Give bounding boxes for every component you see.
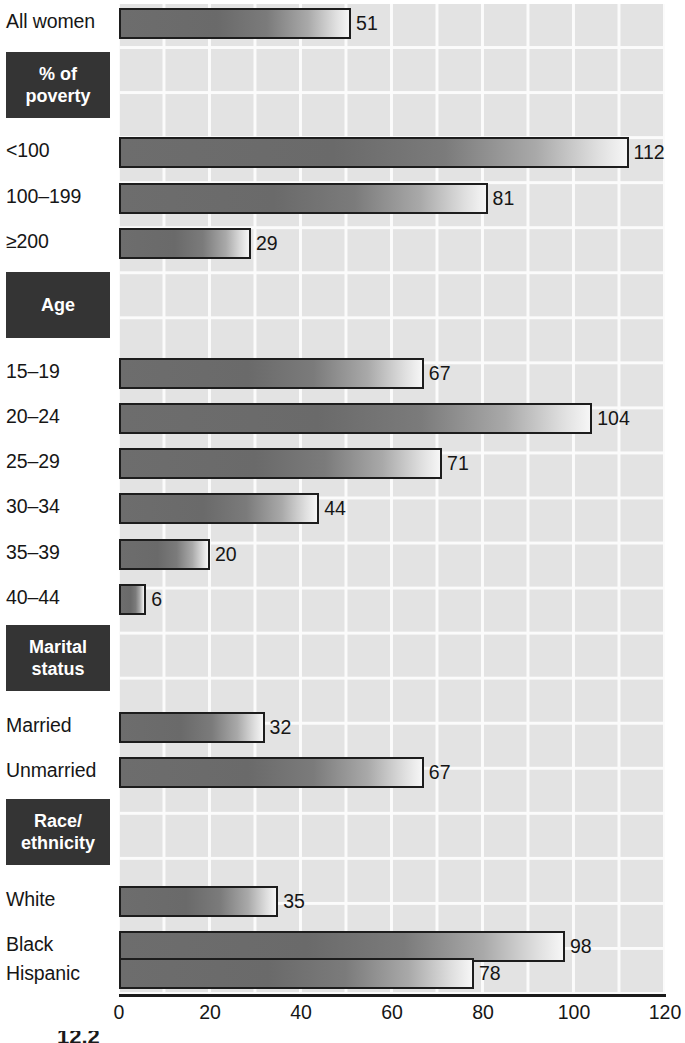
bar-value-label: 35 xyxy=(283,890,305,913)
bar-row-label: Black xyxy=(6,933,114,956)
bar-value-label: 67 xyxy=(429,362,451,385)
section-heading: Maritalstatus xyxy=(6,625,110,691)
x-axis-tick-label: 80 xyxy=(463,1001,503,1024)
bar xyxy=(119,539,210,570)
bar xyxy=(119,183,488,214)
bar-row-label: <100 xyxy=(6,139,114,162)
section-heading-line-2: ethnicity xyxy=(21,832,95,854)
section-heading-line-2: poverty xyxy=(25,85,90,107)
bar-row-label: Married xyxy=(6,714,114,737)
bar xyxy=(119,358,424,389)
bar-value-label: 104 xyxy=(597,407,630,430)
x-axis-tick-label: 100 xyxy=(554,1001,594,1024)
bar xyxy=(119,228,251,259)
bar-row-label: 25–29 xyxy=(6,450,114,473)
bar-row-label: Unmarried xyxy=(6,759,114,782)
bar-value-label: 6 xyxy=(151,588,162,611)
bar-row-label: White xyxy=(6,888,114,911)
bar-value-label: 98 xyxy=(570,935,592,958)
bar-row-label: All women xyxy=(6,10,114,33)
bar-row-label: 40–44 xyxy=(6,586,114,609)
section-heading-line-1: % of xyxy=(39,63,77,85)
bar xyxy=(119,8,351,39)
bar-row-label: 30–34 xyxy=(6,495,114,518)
bar xyxy=(119,403,592,434)
x-axis-line xyxy=(119,994,666,997)
bar-value-label: 67 xyxy=(429,761,451,784)
x-axis-tick-label: 0 xyxy=(99,1001,139,1024)
bar xyxy=(119,712,265,743)
bar-value-label: 78 xyxy=(479,962,501,985)
bar-value-label: 81 xyxy=(493,187,515,210)
section-heading-line-1: Marital xyxy=(29,636,87,658)
bar-value-label: 71 xyxy=(447,452,469,475)
x-axis-tick-label: 20 xyxy=(190,1001,230,1024)
x-axis-tick-label: 120 xyxy=(645,1001,685,1024)
bar xyxy=(119,757,424,788)
bar-value-label: 44 xyxy=(324,497,346,520)
bar-row-label: Hispanic xyxy=(6,962,114,985)
figure-caption-sliver: 12.2 xyxy=(57,1031,100,1043)
bar xyxy=(119,886,278,917)
section-heading: Race/ethnicity xyxy=(6,799,110,865)
bar xyxy=(119,448,442,479)
bar-row-label: 35–39 xyxy=(6,541,114,564)
bar-value-label: 51 xyxy=(356,12,378,35)
bar-value-label: 32 xyxy=(270,716,292,739)
section-heading: Age xyxy=(6,272,110,338)
bar-row-label: 20–24 xyxy=(6,405,114,428)
section-heading-line-1: Race/ xyxy=(34,810,82,832)
bar-row-label: ≥200 xyxy=(6,230,114,253)
x-axis-tick-label: 40 xyxy=(281,1001,321,1024)
bar-row-label: 15–19 xyxy=(6,360,114,383)
x-axis-tick-label: 60 xyxy=(372,1001,412,1024)
bar xyxy=(119,137,629,168)
section-heading-line-2: status xyxy=(31,658,84,680)
bar-value-label: 29 xyxy=(256,232,278,255)
section-heading-line-1: Age xyxy=(41,294,75,316)
bar-value-label: 20 xyxy=(215,543,237,566)
bar xyxy=(119,584,146,615)
bar xyxy=(119,493,319,524)
section-heading: % ofpoverty xyxy=(6,52,110,118)
bar xyxy=(119,958,474,989)
bar-row-label: 100–199 xyxy=(6,185,114,208)
bar-value-label: 112 xyxy=(634,141,665,164)
